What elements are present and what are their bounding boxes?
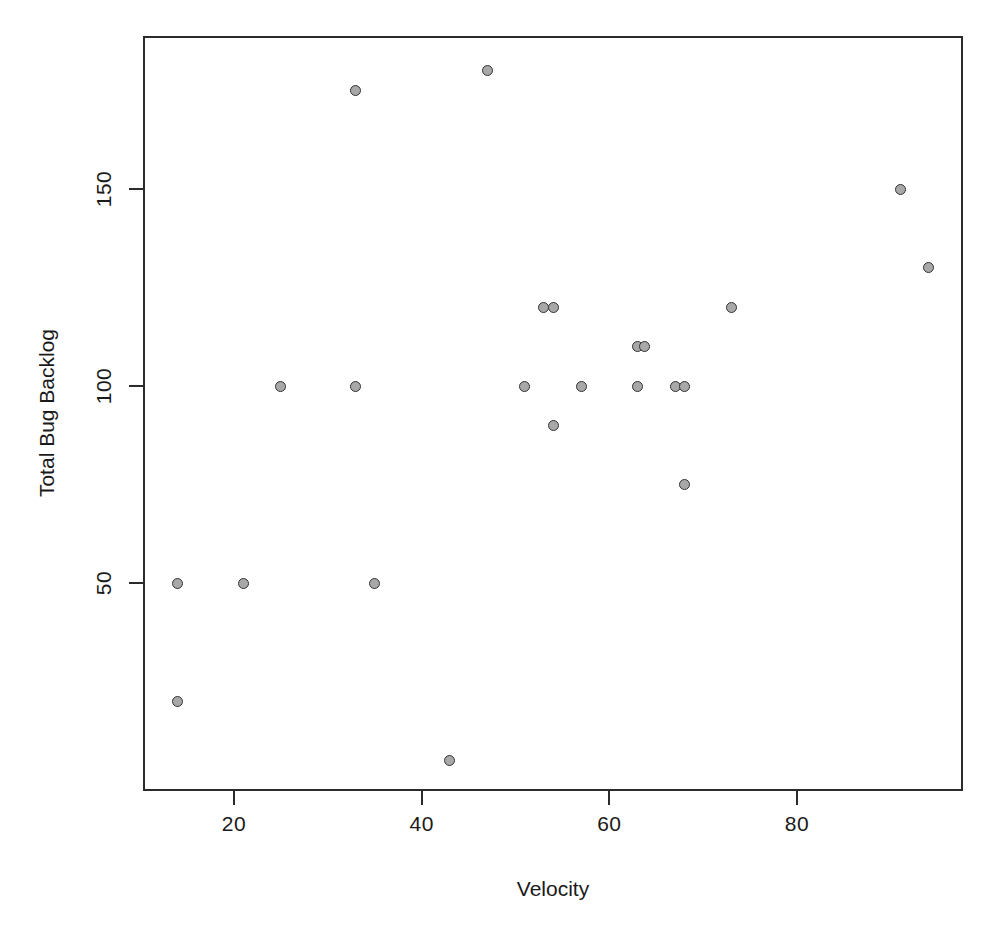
x-axis-tick [796,791,798,805]
y-axis-tick [129,385,143,387]
y-axis-title: Total Bug Backlog [35,329,59,497]
x-axis-tick-label: 20 [222,812,246,836]
x-axis-tick-label: 60 [597,812,621,836]
y-axis-tick [129,582,143,584]
x-axis-tick [608,791,610,805]
y-axis-tick-label: 150 [92,171,116,208]
y-axis-tick-label: 100 [92,368,116,405]
y-axis-tick-label: 50 [92,571,116,595]
x-axis-tick [233,791,235,805]
plot-frame [143,36,963,791]
x-axis-tick-label: 40 [409,812,433,836]
scatter-plot-figure: 20406080 50100150 Velocity Total Bug Bac… [0,0,996,941]
x-axis-tick-label: 80 [785,812,809,836]
x-axis-title: Velocity [517,877,589,901]
x-axis-tick [421,791,423,805]
y-axis-tick [129,188,143,190]
